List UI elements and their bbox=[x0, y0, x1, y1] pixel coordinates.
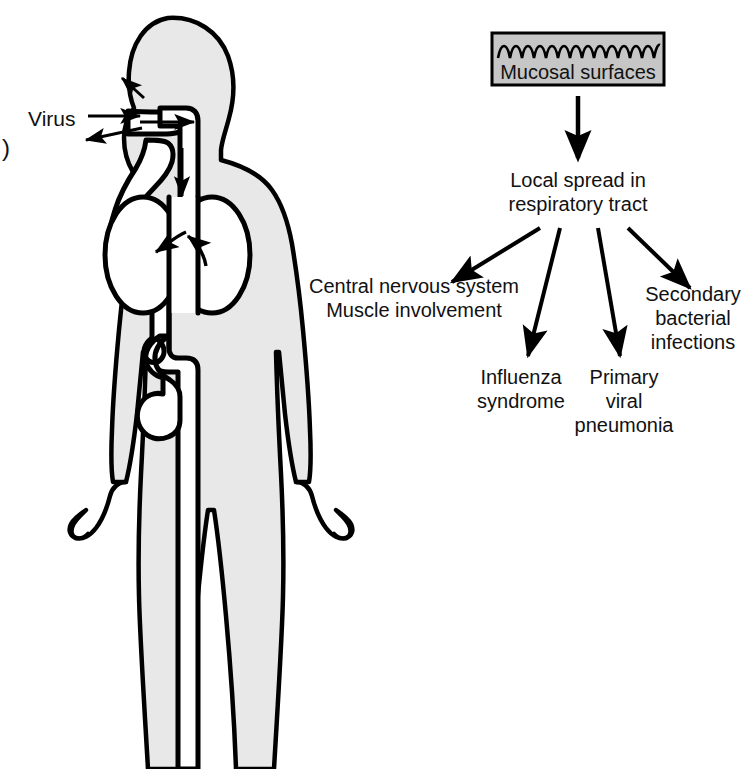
outcome-secondary-line1: Secondary bbox=[645, 283, 741, 305]
outcome-secondary-line2: bacterial bbox=[655, 307, 731, 329]
mucosal-box-label: Mucosal surfaces bbox=[500, 61, 656, 83]
mucosal-surfaces-box: Mucosal surfaces bbox=[492, 33, 664, 85]
influenza-pathogenesis-figure: Virus ) Mucosal surfaces Local spread in… bbox=[0, 0, 753, 769]
outcome-pneumonia-line3: pneumonia bbox=[575, 414, 675, 436]
local-spread-line2: respiratory tract bbox=[509, 193, 648, 215]
outcome-secondary-bacterial-infections: Secondary bacterial infections bbox=[645, 283, 741, 353]
panel-label: ) bbox=[2, 134, 10, 161]
virus-label: Virus bbox=[28, 107, 75, 130]
local-spread-line1: Local spread in bbox=[510, 169, 646, 191]
outcome-pneumonia-line2: viral bbox=[606, 390, 643, 412]
trachea-lung-junction bbox=[169, 197, 198, 313]
outcome-cns-line1: Central nervous system bbox=[309, 275, 519, 297]
outcome-influenza-line1: Influenza bbox=[480, 366, 562, 388]
outcome-cns-line2: Muscle involvement bbox=[326, 299, 502, 321]
outcome-pneumonia-line1: Primary bbox=[590, 366, 659, 388]
outcome-secondary-line3: infections bbox=[651, 331, 736, 353]
outcome-influenza-line2: syndrome bbox=[477, 390, 565, 412]
